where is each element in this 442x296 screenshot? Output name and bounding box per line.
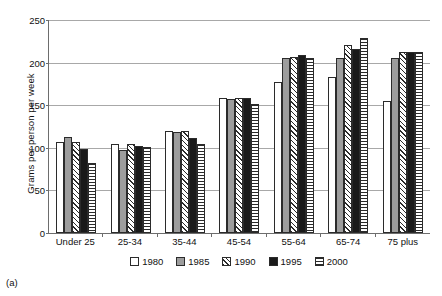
bar-2000-75-plus	[415, 52, 423, 233]
y-tick-mark	[46, 233, 49, 234]
bar-1995-35-44	[189, 138, 197, 233]
bar-1990-25-34	[127, 144, 135, 233]
bar-2000-35-44	[197, 144, 205, 233]
legend: 19801985199019952000	[48, 256, 430, 267]
x-tick-mark	[266, 233, 267, 237]
bar-1980-35-44	[165, 131, 173, 233]
x-tick-label: Under 25	[48, 236, 103, 247]
bar-1980-65-74	[328, 77, 336, 233]
plot-area: 050100150200250	[48, 20, 430, 234]
bar-1995-45-54	[243, 98, 251, 233]
bar-1990-75-plus	[399, 52, 407, 233]
legend-item-1980: 1980	[130, 256, 163, 267]
x-tick-label: 75 plus	[375, 236, 430, 247]
bar-group	[212, 20, 266, 233]
y-tick-label: 250	[29, 15, 45, 26]
bar-2000-55-64	[306, 58, 314, 234]
legend-label: 1985	[188, 256, 209, 267]
x-tick-mark	[211, 233, 212, 237]
bar-1995-65-74	[352, 49, 360, 233]
figure-caption: (a)	[6, 277, 18, 288]
bar-group	[158, 20, 212, 233]
x-tick-label: 35-44	[157, 236, 212, 247]
bar-1985-25-34	[119, 150, 127, 233]
x-tick-mark	[102, 233, 103, 237]
bar-2000-45-54	[251, 104, 259, 234]
x-tick-label: 25-34	[103, 236, 158, 247]
bar-1990-under-25	[72, 142, 80, 233]
bar-1985-75-plus	[391, 58, 399, 233]
bar-groups	[49, 20, 430, 233]
legend-swatch-1990	[222, 257, 231, 266]
x-tick-mark	[320, 233, 321, 237]
legend-swatch-1985	[176, 257, 185, 266]
bar-1990-65-74	[344, 45, 352, 233]
bar-1990-45-54	[235, 98, 243, 233]
legend-swatch-1980	[130, 257, 139, 266]
bar-2000-25-34	[143, 147, 151, 233]
x-axis-tick-labels: Under 2525-3435-4445-5455-6465-7475 plus	[48, 236, 430, 247]
legend-label: 2000	[327, 256, 348, 267]
bar-1995-55-64	[298, 55, 306, 233]
legend-item-2000: 2000	[315, 256, 348, 267]
legend-item-1985: 1985	[176, 256, 209, 267]
x-tick-label: 65-74	[321, 236, 376, 247]
bar-2000-under-25	[88, 163, 96, 233]
bar-1985-45-54	[227, 99, 235, 233]
figure: Grams per person per week 05010015020025…	[0, 0, 442, 296]
legend-item-1990: 1990	[222, 256, 255, 267]
bar-group	[376, 20, 430, 233]
bar-1985-under-25	[64, 137, 72, 233]
legend-swatch-2000	[315, 257, 324, 266]
bar-1980-75-plus	[383, 101, 391, 233]
bar-1980-under-25	[56, 142, 64, 233]
bar-1985-65-74	[336, 58, 344, 233]
x-tick-mark	[375, 233, 376, 237]
y-tick-label: 200	[29, 57, 45, 68]
bar-1990-55-64	[290, 57, 298, 233]
bar-1980-25-34	[111, 144, 119, 233]
x-tick-label: 45-54	[212, 236, 267, 247]
bar-group	[267, 20, 321, 233]
legend-label: 1995	[281, 256, 302, 267]
legend-label: 1990	[234, 256, 255, 267]
bar-1980-55-64	[274, 82, 282, 233]
bar-group	[49, 20, 103, 233]
y-tick-label: 150	[29, 100, 45, 111]
bar-1995-75-plus	[407, 52, 415, 233]
bar-1990-35-44	[181, 131, 189, 233]
bar-1980-45-54	[219, 98, 227, 233]
legend-item-1995: 1995	[269, 256, 302, 267]
y-tick-label: 50	[34, 185, 45, 196]
bar-1985-35-44	[173, 132, 181, 233]
bar-group	[103, 20, 157, 233]
x-tick-label: 55-64	[266, 236, 321, 247]
x-tick-mark	[157, 233, 158, 237]
legend-swatch-1995	[269, 257, 278, 266]
bar-1985-55-64	[282, 58, 290, 233]
y-tick-label: 0	[40, 228, 45, 239]
legend-label: 1980	[142, 256, 163, 267]
bar-2000-65-74	[360, 38, 368, 233]
y-tick-label: 100	[29, 142, 45, 153]
bar-group	[321, 20, 375, 233]
bar-1995-25-34	[135, 146, 143, 233]
bar-1995-under-25	[80, 149, 88, 233]
